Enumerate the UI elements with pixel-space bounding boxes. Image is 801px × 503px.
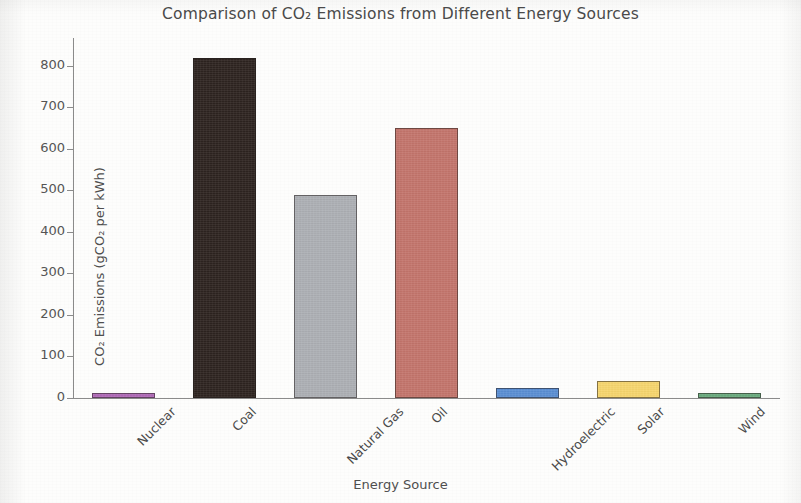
chart-figure: Comparison of CO₂ Emissions from Differe… xyxy=(0,0,801,503)
y-axis-tick xyxy=(67,398,73,399)
x-axis-tick-label-nuclear: Nuclear xyxy=(134,404,179,449)
x-axis-line xyxy=(73,398,780,399)
y-axis-tick-label: 100 xyxy=(13,347,65,362)
x-axis-title: Energy Source xyxy=(0,477,801,492)
bar-solar[interactable] xyxy=(597,381,660,398)
y-axis-tick-label: 700 xyxy=(13,98,65,113)
y-axis-tick-label: 600 xyxy=(13,140,65,155)
bar-wind[interactable] xyxy=(698,393,761,398)
bar-hydroelectric[interactable] xyxy=(496,388,559,398)
bar-oil[interactable] xyxy=(395,128,458,398)
y-axis-tick-label: 200 xyxy=(13,306,65,321)
y-axis-tick-label: 500 xyxy=(13,181,65,196)
y-axis-tick-label: 0 xyxy=(13,389,65,404)
x-axis-tick-label-coal: Coal xyxy=(229,404,259,434)
x-axis-tick-label-wind: Wind xyxy=(735,404,768,437)
x-axis-tick-label-oil: Oil xyxy=(427,404,449,426)
bar-nuclear[interactable] xyxy=(92,393,155,398)
chart-title: Comparison of CO₂ Emissions from Differe… xyxy=(0,5,801,23)
y-axis-tick-label: 400 xyxy=(13,223,65,238)
x-axis-tick-label-solar: Solar xyxy=(634,404,667,437)
bar-natural-gas[interactable] xyxy=(294,195,357,398)
y-axis-tick-label: 800 xyxy=(13,57,65,72)
y-axis-tick-label: 300 xyxy=(13,264,65,279)
bar-coal[interactable] xyxy=(193,58,256,398)
plot-area: CO₂ Emissions (gCO₂ per kWh) xyxy=(73,41,780,398)
x-axis-tick-label-hydroelectric: Hydroelectric xyxy=(548,404,618,474)
x-axis-tick-label-natural-gas: Natural Gas xyxy=(343,404,406,467)
